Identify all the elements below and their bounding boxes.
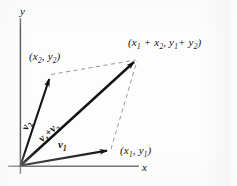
parallelogram-dashed-edges [51, 60, 137, 149]
diagram-canvas [0, 0, 237, 186]
point-label-v2-tip: (x2, y2) [29, 51, 60, 65]
vector-addition-figure: y x (x2, y2) (x1, y1) (x1 + x2, y1+ y2) … [0, 0, 237, 186]
vector-label-v1: v1 [58, 139, 67, 153]
x-axis-label: x [142, 162, 147, 173]
point-label-resultant-tip: (x1 + x2, y1+ y2) [128, 37, 201, 51]
point-label-v1-tip: (x1, y1) [120, 145, 151, 159]
y-axis-label: y [20, 6, 25, 17]
dashed-edge-right [111, 61, 137, 149]
vectors-group [21, 62, 135, 166]
